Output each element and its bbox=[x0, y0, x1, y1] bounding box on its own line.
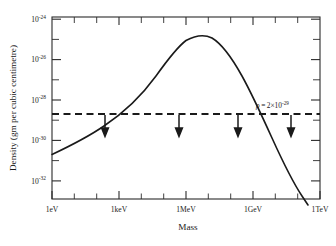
y-tick-label: 10-28 bbox=[31, 94, 46, 104]
data-series-group bbox=[52, 36, 308, 205]
x-tick-label: 1MeV bbox=[176, 205, 196, 214]
x-tick-label: 1GeV bbox=[244, 205, 263, 214]
chart-figure: 10-24 10-26 10-28 10-30 10-32 1eV 1keV 1… bbox=[0, 0, 336, 246]
x-tick-label: 1TeV bbox=[312, 205, 329, 214]
upper-limit-arrows bbox=[102, 115, 295, 137]
chart-plot-svg: 10-24 10-26 10-28 10-30 10-32 1eV 1keV 1… bbox=[0, 0, 336, 246]
y-tick-label: 10-24 bbox=[31, 14, 46, 24]
density-curve bbox=[52, 36, 308, 205]
limit-arrow bbox=[235, 115, 242, 137]
critical-density-label: ρ=2×10-29 bbox=[255, 100, 289, 110]
y-axis-title: Density (gm per cubic centimetre) bbox=[8, 45, 18, 171]
limit-arrow bbox=[176, 115, 183, 137]
x-axis-title: Mass bbox=[178, 222, 198, 232]
y-tick-label: 10-30 bbox=[31, 135, 46, 145]
x-tick-label: 1eV bbox=[46, 205, 59, 214]
limit-arrow bbox=[102, 115, 109, 137]
limit-arrow bbox=[288, 115, 295, 137]
y-tick-label: 10-32 bbox=[31, 175, 46, 185]
y-tick-label: 10-26 bbox=[31, 54, 46, 64]
x-tick-label: 1keV bbox=[111, 205, 128, 214]
x-tick-labels: 1eV 1keV 1MeV 1GeV 1TeV bbox=[46, 205, 329, 214]
reference-line-annotation: ρ=2×10-29 bbox=[255, 100, 289, 110]
y-tick-labels: 10-24 10-26 10-28 10-30 10-32 bbox=[31, 14, 46, 186]
